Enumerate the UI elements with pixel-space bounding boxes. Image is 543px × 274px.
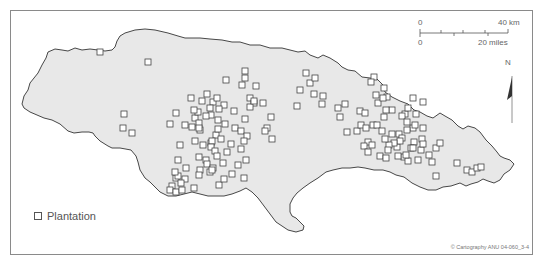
plantation-marker bbox=[268, 114, 274, 120]
plantation-marker bbox=[420, 141, 426, 147]
plantation-marker bbox=[235, 162, 241, 168]
plantation-marker bbox=[232, 125, 238, 131]
scale-km-end: 40 km bbox=[498, 18, 520, 27]
plantation-marker bbox=[215, 117, 221, 123]
plantation-marker bbox=[231, 108, 237, 114]
legend: Plantation bbox=[34, 210, 96, 222]
plantation-marker bbox=[179, 187, 185, 193]
plantation-marker bbox=[238, 146, 244, 152]
plantation-marker bbox=[191, 107, 197, 113]
plantation-marker bbox=[173, 110, 179, 116]
plantation-marker bbox=[389, 131, 395, 137]
plantation-marker bbox=[207, 105, 213, 111]
plantation-marker bbox=[200, 142, 206, 148]
plantation-marker bbox=[363, 125, 369, 131]
plantation-marker bbox=[412, 122, 418, 128]
plantation-marker bbox=[337, 114, 343, 120]
plantation-marker bbox=[221, 176, 227, 182]
plantation-marker bbox=[253, 83, 259, 89]
plantation-marker bbox=[429, 159, 435, 165]
plantation-marker bbox=[228, 141, 234, 147]
plantation-marker bbox=[389, 107, 395, 113]
plantation-marker bbox=[189, 124, 195, 130]
plantation-marker bbox=[383, 107, 389, 113]
plantation-marker bbox=[242, 68, 248, 74]
plantation-marker bbox=[269, 136, 275, 142]
plantation-marker bbox=[175, 157, 181, 163]
plantation-marker bbox=[433, 173, 439, 179]
plantation-marker bbox=[182, 122, 188, 128]
plantation-marker bbox=[354, 128, 360, 134]
plantation-marker bbox=[410, 95, 416, 101]
plantation-marker bbox=[311, 91, 317, 97]
plantation-marker bbox=[335, 105, 341, 111]
plantation-marker bbox=[319, 101, 325, 107]
plantation-marker bbox=[413, 111, 419, 117]
scale-miles-end: 20 miles bbox=[478, 38, 508, 47]
plantation-marker bbox=[420, 99, 426, 105]
plantation-marker bbox=[216, 182, 222, 188]
plantation-marker bbox=[395, 153, 401, 159]
plantation-marker bbox=[204, 161, 210, 167]
plantation-marker bbox=[241, 138, 247, 144]
plantation-marker bbox=[368, 79, 374, 85]
plantation-marker bbox=[97, 49, 103, 55]
plantation-marker bbox=[178, 180, 184, 186]
plantation-marker bbox=[183, 165, 189, 171]
plantation-marker bbox=[242, 116, 248, 122]
plantation-marker bbox=[215, 126, 221, 132]
plantation-marker bbox=[404, 127, 410, 133]
plantation-marker bbox=[173, 189, 179, 195]
plantation-marker bbox=[199, 98, 205, 104]
plantation-marker bbox=[320, 93, 326, 99]
plantation-marker bbox=[129, 130, 135, 136]
plantation-marker bbox=[379, 128, 385, 134]
plantation-marker bbox=[229, 171, 235, 177]
plantation-marker bbox=[405, 105, 411, 111]
plantation-marker bbox=[404, 119, 410, 125]
plantation-marker bbox=[382, 136, 388, 142]
plantation-marker bbox=[196, 154, 202, 160]
plantation-marker bbox=[377, 153, 383, 159]
plantation-marker bbox=[220, 160, 226, 166]
plantation-marker bbox=[297, 87, 303, 93]
plantation-marker bbox=[243, 157, 249, 163]
plantation-marker bbox=[214, 153, 220, 159]
plantation-marker bbox=[214, 95, 220, 101]
north-label: N bbox=[505, 58, 511, 67]
plantation-marker bbox=[415, 157, 421, 163]
plantation-marker bbox=[369, 142, 375, 148]
plantation-marker bbox=[342, 101, 348, 107]
plantation-marker bbox=[167, 121, 173, 127]
plantation-marker bbox=[209, 167, 215, 173]
plantation-marker bbox=[145, 59, 151, 65]
plantation-marker bbox=[167, 187, 173, 193]
plantation-marker bbox=[410, 145, 416, 151]
plantation-marker bbox=[247, 104, 253, 110]
credit: © Cartography ANU 04-060_3-4 bbox=[451, 244, 529, 250]
plantation-marker bbox=[294, 103, 300, 109]
plantation-marker bbox=[312, 75, 318, 81]
plantation-marker bbox=[303, 70, 309, 76]
plantation-marker bbox=[239, 82, 245, 88]
plantation-marker bbox=[242, 75, 248, 81]
plantation-marker bbox=[374, 122, 380, 128]
plantation-marker bbox=[204, 91, 210, 97]
plantation-marker bbox=[399, 113, 405, 119]
plantation-marker bbox=[405, 158, 411, 164]
plantation-marker bbox=[216, 106, 222, 112]
plantation-marker bbox=[241, 175, 247, 181]
plantation-marker bbox=[196, 172, 202, 178]
plantation-marker bbox=[172, 169, 178, 175]
plantation-marker bbox=[251, 98, 257, 104]
plantation-marker bbox=[196, 125, 202, 131]
plantation-marker bbox=[121, 111, 127, 117]
plantation-marker bbox=[361, 143, 367, 149]
plantation-marker bbox=[437, 140, 443, 146]
plantation-marker bbox=[365, 149, 371, 155]
plantation-marker bbox=[411, 139, 417, 145]
north-arrow-icon bbox=[507, 76, 512, 123]
plantation-marker bbox=[362, 110, 368, 116]
plantation-marker bbox=[209, 138, 215, 144]
plantation-square-icon bbox=[34, 212, 42, 220]
